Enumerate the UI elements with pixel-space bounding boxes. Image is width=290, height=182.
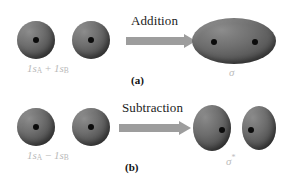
operation-label-subtraction: Subtraction [122,100,183,116]
arrow-addition [126,37,196,45]
reactant-label-b: 1sA − 1sB [27,149,69,162]
arrow-shaft-addition [126,37,184,45]
nucleus-1s-b-bottom [88,124,94,130]
sigma-glyph: σ [229,66,234,78]
molecular-orbital-figure: 1sA + 1sB Addition σ (a) 1sA − 1sB [0,0,290,182]
reactant-label-a: 1sA + 1sB [27,62,69,75]
arrow-subtraction [119,124,191,132]
nucleus-1s-b-top [88,37,94,43]
nucleus-sigma-star-right [248,127,254,133]
panel-label-a: (a) [131,74,144,86]
sigma-star-superscript: * [231,153,235,162]
orbital-sigma-star-right [242,106,276,150]
arrow-head-subtraction [179,121,191,135]
nucleus-sigma-star-left [219,127,225,133]
operation-label-addition: Addition [131,13,178,29]
arrow-shaft-subtraction [119,124,179,132]
panel-label-b: (b) [125,161,138,173]
product-label-sigma-star: σ* [226,153,235,167]
nucleus-sigma-left [211,39,217,45]
nucleus-sigma-right [252,39,258,45]
orbital-sigma-bonding [192,18,276,64]
orbital-sigma-star-left [193,105,231,151]
nucleus-1s-a-top [33,37,39,43]
nucleus-1s-a-bottom [33,124,39,130]
product-label-sigma: σ [229,66,234,78]
